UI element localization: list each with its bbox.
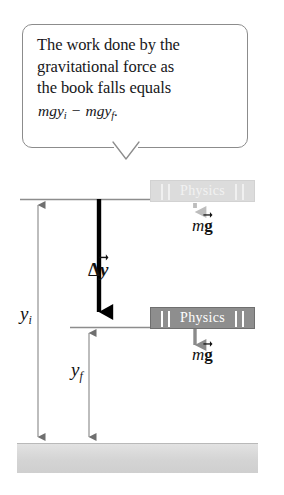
label-final-height-subscript: f	[79, 369, 82, 383]
displacement-variable-wrap: y	[100, 259, 108, 281]
ground-surface	[17, 443, 258, 473]
mass-symbol-upper: m	[192, 216, 204, 235]
physics-figure-work-by-gravity: The work done by the gravitational force…	[0, 0, 284, 495]
mass-symbol-lower: m	[192, 345, 204, 364]
label-displacement-vector: Δy	[88, 259, 108, 281]
gravity-variable-lower: g	[204, 345, 213, 364]
label-initial-height: yi	[20, 303, 32, 328]
gravity-variable-upper: g	[204, 216, 213, 235]
label-initial-height-subscript: i	[28, 313, 31, 327]
delta-symbol: Δ	[88, 259, 100, 280]
gravity-variable-wrap-lower: g	[204, 345, 213, 365]
displacement-variable: y	[100, 259, 108, 280]
label-final-height: yf	[71, 359, 83, 384]
diagram-arrows-layer	[0, 0, 284, 495]
callout-tail-outline-icon	[108, 140, 144, 164]
label-weight-vector-upper: mg	[192, 216, 213, 236]
gravity-variable-wrap-upper: g	[204, 216, 213, 236]
label-weight-vector-lower: mg	[192, 345, 213, 365]
